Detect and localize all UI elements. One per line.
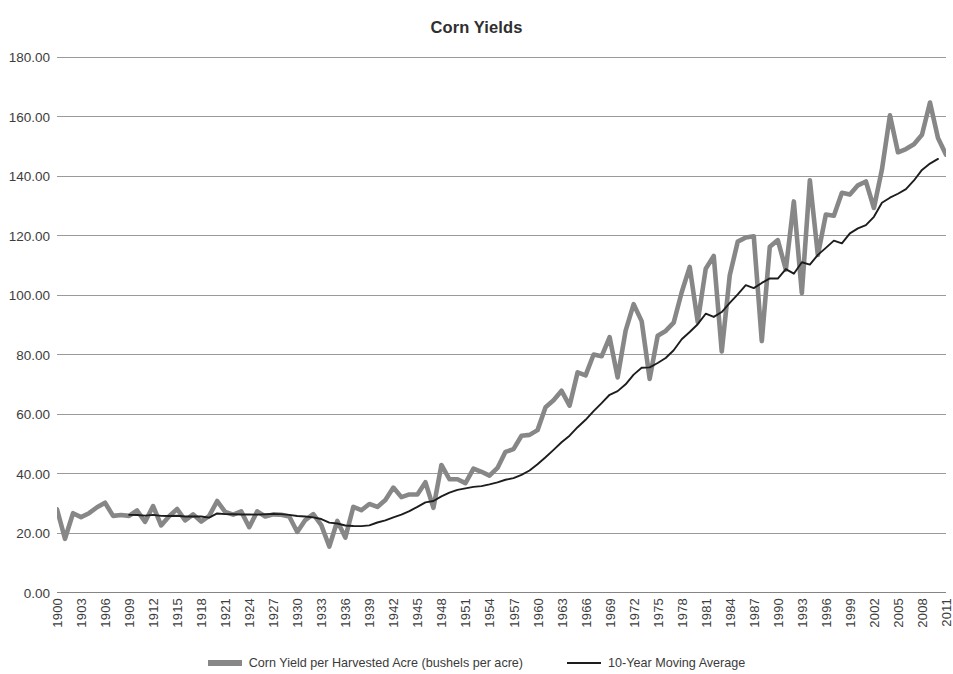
x-tick-label: 1918 (194, 598, 209, 628)
x-tick-label: 1981 (699, 598, 714, 628)
x-tick-label: 1921 (218, 598, 233, 628)
series-line-corn-yield (57, 103, 946, 547)
x-tick-label: 1933 (314, 598, 329, 628)
x-tick-label: 1960 (531, 598, 546, 628)
x-axis: 1900190319061909191219151918192119241927… (57, 598, 946, 658)
legend-label: 10-Year Moving Average (608, 656, 745, 670)
x-tick-label: 2011 (939, 598, 953, 627)
x-tick-label: 1912 (146, 598, 161, 628)
x-tick-label: 1906 (98, 598, 113, 628)
x-tick-label: 1966 (579, 598, 594, 628)
y-tick-label: 140.00 (0, 169, 50, 184)
x-tick-label: 1954 (482, 598, 497, 628)
y-tick-label: 180.00 (0, 50, 50, 65)
x-tick-label: 1948 (434, 598, 449, 628)
x-tick-label: 2002 (867, 598, 882, 628)
x-tick-label: 1978 (675, 598, 690, 628)
x-tick-label: 1930 (290, 598, 305, 628)
y-tick-label: 40.00 (0, 466, 50, 481)
x-tick-label: 1915 (170, 598, 185, 628)
legend-label: Corn Yield per Harvested Acre (bushels p… (249, 656, 523, 670)
plot-area (57, 57, 946, 593)
chart-title: Corn Yields (0, 18, 953, 37)
x-tick-label: 1993 (795, 598, 810, 628)
x-tick-label: 1972 (627, 598, 642, 628)
x-tick-label: 1987 (747, 598, 762, 628)
x-tick-label: 1942 (386, 598, 401, 628)
gridlines (57, 57, 946, 593)
x-tick-label: 1945 (410, 598, 425, 628)
series-layer (57, 103, 946, 547)
x-tick-label: 1900 (50, 598, 65, 628)
x-tick-label: 1936 (338, 598, 353, 628)
plot-svg (57, 57, 946, 593)
corn-yields-chart: Corn Yields 180.00160.00140.00120.00100.… (0, 0, 953, 674)
x-tick-label: 1999 (843, 598, 858, 628)
x-tick-label: 1927 (266, 598, 281, 628)
y-tick-label: 120.00 (0, 228, 50, 243)
x-tick-label: 1939 (362, 598, 377, 628)
x-tick-label: 1975 (651, 598, 666, 628)
x-tick-label: 1963 (555, 598, 570, 628)
x-tick-label: 1990 (771, 598, 786, 628)
x-tick-label: 1951 (458, 598, 473, 628)
y-tick-label: 60.00 (0, 407, 50, 422)
y-tick-label: 20.00 (0, 526, 50, 541)
y-tick-label: 0.00 (0, 586, 50, 601)
x-tick-label: 1984 (723, 598, 738, 628)
y-tick-label: 160.00 (0, 109, 50, 124)
y-tick-label: 80.00 (0, 347, 50, 362)
legend-entry[interactable]: Corn Yield per Harvested Acre (bushels p… (208, 656, 523, 670)
legend-swatch-icon (208, 660, 242, 666)
x-tick-label: 1969 (603, 598, 618, 628)
x-tick-label: 1924 (242, 598, 257, 628)
series-line-moving-average (129, 159, 938, 526)
chart-legend: Corn Yield per Harvested Acre (bushels p… (0, 656, 953, 670)
y-tick-label: 100.00 (0, 288, 50, 303)
x-tick-label: 1909 (122, 598, 137, 628)
x-tick-label: 1996 (819, 598, 834, 628)
x-tick-label: 1903 (74, 598, 89, 628)
legend-swatch-icon (567, 662, 601, 664)
y-axis: 180.00160.00140.00120.00100.0080.0060.00… (0, 0, 50, 674)
legend-entry[interactable]: 10-Year Moving Average (567, 656, 745, 670)
x-tick-label: 2008 (915, 598, 930, 628)
x-tick-label: 2005 (891, 598, 906, 628)
x-tick-label: 1957 (507, 598, 522, 628)
